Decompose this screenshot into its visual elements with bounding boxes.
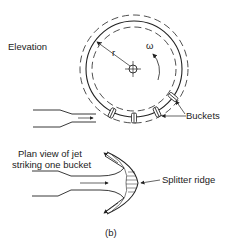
plan-view-label-line2: striking one bucket [12, 159, 91, 170]
omega-label: ω [146, 40, 153, 51]
buckets-leaders [162, 101, 186, 116]
splitter-label: Splitter ridge [162, 174, 215, 185]
elevation-label: Elevation [8, 41, 47, 52]
radius-label: r [112, 47, 115, 58]
buckets-label: Buckets [186, 110, 220, 121]
plan-view-label-line1: Plan view of jet [18, 148, 82, 159]
omega-arrow [153, 54, 160, 80]
plan-nozzle [32, 171, 108, 196]
wheel [80, 15, 188, 123]
figure-label: (b) [105, 227, 117, 238]
buckets [108, 92, 179, 123]
elevation-nozzle [33, 110, 96, 127]
plan-bucket [100, 152, 160, 214]
